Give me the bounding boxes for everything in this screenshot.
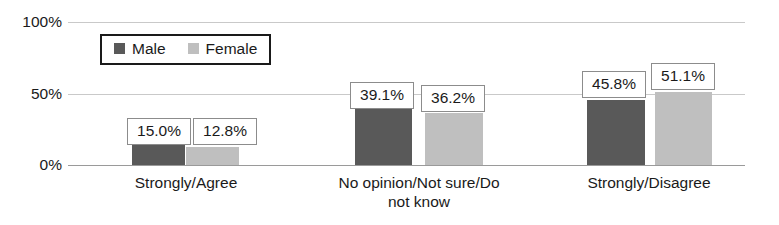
legend-label-female: Female: [206, 41, 258, 57]
data-label-female-no-opinion: 36.2%: [421, 85, 485, 112]
bar-female-no-opinion: [425, 113, 483, 165]
category-label-no-opinion-line2: not know: [330, 192, 508, 211]
gridline-100: [68, 22, 745, 23]
grouped-bar-chart: 100% 50% 0% 15.0% 12.8% 39.1% 36.2% 45.8…: [0, 0, 779, 225]
bar-male-strongly-disagree: [587, 100, 645, 165]
category-label-no-opinion: No opinion/Not sure/Do not know: [330, 173, 508, 211]
category-label-strongly-agree: Strongly/Agree: [105, 173, 267, 192]
category-label-no-opinion-line1: No opinion/Not sure/Do: [330, 173, 508, 192]
bar-male-no-opinion: [355, 109, 412, 165]
bar-male-strongly-agree: [132, 144, 185, 165]
ytick-label-0: 0%: [4, 157, 62, 173]
chart-legend: Male Female: [100, 34, 271, 65]
bar-female-strongly-disagree: [655, 92, 712, 165]
data-label-male-strongly-agree: 15.0%: [127, 118, 191, 145]
male-swatch-icon: [114, 43, 125, 54]
legend-entry-female: Female: [188, 41, 258, 57]
ytick-label-50: 50%: [4, 86, 62, 102]
female-swatch-icon: [188, 43, 199, 54]
data-label-male-strongly-disagree: 45.8%: [582, 71, 646, 98]
category-label-strongly-disagree: Strongly/Disagree: [568, 173, 730, 192]
legend-entry-male: Male: [114, 41, 166, 57]
data-label-female-strongly-agree: 12.8%: [193, 118, 257, 145]
bar-female-strongly-agree: [186, 147, 239, 165]
legend-label-male: Male: [132, 41, 166, 57]
data-label-male-no-opinion: 39.1%: [350, 82, 414, 109]
axis-baseline-0: [68, 165, 745, 166]
ytick-label-100: 100%: [4, 14, 62, 30]
data-label-female-strongly-disagree: 51.1%: [651, 63, 715, 90]
